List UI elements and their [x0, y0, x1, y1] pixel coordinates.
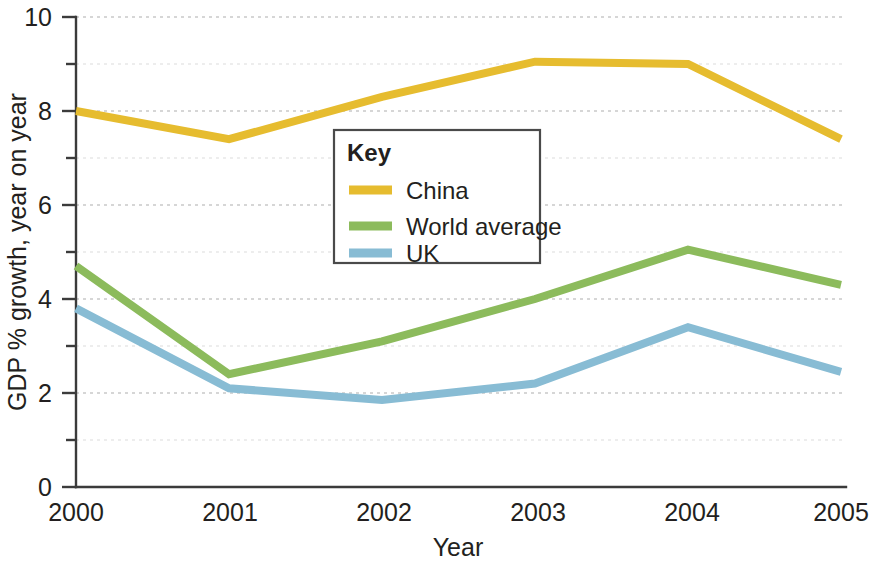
y-tick-label-10: 10 [24, 3, 52, 31]
legend-title: Key [347, 139, 392, 166]
legend-label-world-average: World average [406, 213, 562, 240]
x-tick-label-2004: 2004 [664, 498, 720, 526]
series-line-world-average [76, 250, 841, 375]
y-tick-label-6: 6 [38, 191, 52, 219]
legend-label-china: China [406, 177, 469, 204]
y-tick-label-8: 8 [38, 97, 52, 125]
gdp-growth-line-chart: 10 8 6 4 2 0 2000 2001 2002 2003 2004 20… [0, 0, 873, 561]
y-tick-label-4: 4 [38, 285, 52, 313]
chart-canvas: 10 8 6 4 2 0 2000 2001 2002 2003 2004 20… [0, 0, 873, 561]
x-tick-label-2000: 2000 [48, 498, 104, 526]
series-line-china [76, 62, 841, 140]
x-axis-title: Year [433, 533, 484, 561]
y-tick-label-0: 0 [38, 473, 52, 501]
x-tick-labels: 2000 2001 2002 2003 2004 2005 [48, 498, 869, 526]
y-tick-label-2: 2 [38, 379, 52, 407]
x-tick-label-2001: 2001 [202, 498, 258, 526]
x-tick-label-2002: 2002 [356, 498, 412, 526]
legend-label-uk: UK [406, 240, 439, 267]
y-axis-title: GDP % growth, year on year [3, 93, 31, 411]
y-tick-marks [62, 17, 76, 487]
x-tick-label-2003: 2003 [510, 498, 566, 526]
x-tick-label-2005: 2005 [813, 498, 869, 526]
legend: Key China World average UK [334, 130, 562, 267]
